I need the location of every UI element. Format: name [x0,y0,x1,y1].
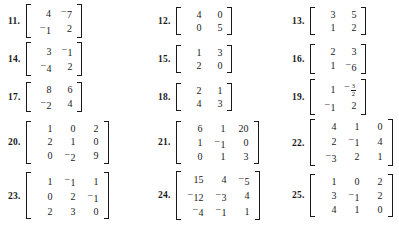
matrix-body: 3512 [317,8,359,34]
matrix-entry: 1 [79,173,102,189]
matrix-entry-value: 1 [197,137,202,148]
matrix-entry: 2 [54,59,75,75]
exercise-item: 12.4005 [148,7,290,35]
exercise-item: 18.2143 [148,83,290,111]
matrix-entry: −4 [183,203,207,219]
exercise-row: 17.86−2418.214319.1−32−12 [0,78,399,116]
matrix-entry: −1 [54,43,75,59]
matrix-entry: 1 [183,46,204,59]
exercise-item: 11.4−7−12 [0,4,148,38]
matrix-entry: −1 [33,21,54,37]
matrix-row: 1−10 [183,135,252,151]
matrix: 4−7−12 [26,4,82,38]
matrix-entry-value: 1 [354,121,359,132]
matrix: 3512 [310,7,366,35]
matrix-entry: 1 [317,21,338,34]
matrix-row: 21 [183,84,225,97]
matrix-row: 230 [33,205,102,218]
matrix-row: 4−7 [33,5,75,21]
matrix-entry-value: 0 [354,176,359,187]
matrix-entry: −3 [207,188,230,204]
exercise-item: 19.1−32−12 [290,79,399,114]
matrix-entry: −2 [56,148,79,164]
matrix-entry-value: 6 [351,61,356,72]
matrix-entry-value: 3 [351,46,356,57]
matrix-row: 0−29 [33,148,102,164]
matrix-row: 86 [33,83,75,96]
matrix-entry-value: 0 [217,9,222,20]
matrix-row: 410 [317,203,386,216]
matrix-entry: −4 [33,59,54,75]
matrix: 4102−14−321 [310,119,393,166]
matrix-entry: 2 [54,21,75,37]
matrix-entry: 3 [204,46,225,59]
matrix-entry-value: 4 [67,98,72,109]
matrix-entry-value: 3 [46,46,51,57]
matrix-entry-value: 0 [93,206,98,217]
matrix-entry-value: 2 [67,61,72,72]
exercise-number: 23. [8,191,20,201]
matrix-entry-value: 4 [377,136,382,147]
matrix-row: 3−12 [317,188,386,204]
matrix-row: −42 [33,59,75,75]
matrix-entry-value: 4 [46,8,51,19]
matrix-entry-value: 3 [217,98,222,109]
exercise-item: 14.3−1−42 [0,42,148,76]
matrix-row: 6120 [183,122,252,135]
matrix-entry: 0 [229,135,252,151]
matrix-entry: 0 [183,21,204,34]
exercise-number: 18. [158,92,170,102]
matrix-row: −12 [33,21,75,37]
exercise-item: 15.1320 [148,45,290,73]
matrix-entry: −6 [338,58,359,74]
matrix-row: −12 [317,98,359,114]
matrix-entry: 2 [363,188,386,204]
matrix-entry-value: 2 [67,23,72,34]
matrix-body: 1−32−12 [317,80,359,113]
matrix-row: 12 [317,21,359,34]
matrix-row: 1−11 [33,173,102,189]
matrix-entry: 5 [204,21,225,34]
matrix-row: 2−14 [317,133,386,149]
matrix-entry: 4 [230,188,253,204]
matrix-entry: 1 [206,150,229,163]
matrix-body: 1320 [183,46,225,72]
matrix-row: 23 [317,45,359,58]
exercise-item: 25.1023−12410 [290,174,399,218]
matrix-row: −12−34 [183,188,253,204]
matrix-entry-value: 5 [217,22,222,33]
matrix-entry-value: 2 [377,176,382,187]
matrix-entry-value: 2 [330,46,335,57]
matrix-entry: 15 [183,172,207,188]
matrix: 1022100−29 [26,121,109,165]
matrix-entry: 3 [56,205,79,218]
matrix-entry: 0 [183,150,206,163]
matrix-row: 3−1 [33,43,75,59]
matrix-entry-value: 0 [196,22,201,33]
matrix-entry: 6 [54,83,75,96]
matrix-row: 102 [33,122,102,135]
matrix-row: 410 [317,120,386,133]
matrix-entry-value: 2 [70,191,75,202]
matrix-row: 40 [183,8,225,21]
matrix-entry-value: 0 [47,150,52,161]
matrix-row: 13 [183,46,225,59]
matrix-entry-value: 0 [377,204,382,215]
matrix-entry: −1 [340,188,363,204]
matrix-entry-value: 2 [93,123,98,134]
matrix-entry: −7 [54,5,75,21]
matrix-row: 20 [183,59,225,72]
matrix-entry-value: 1 [220,123,225,134]
matrix-body: 1−1102−1230 [33,173,102,218]
matrix-entry: 1 [183,135,206,151]
matrix-entry-value: 6 [67,84,72,95]
matrix-entry: 3 [317,8,338,21]
matrix-entry-value: 3 [331,153,336,164]
matrix-entry: 4 [317,203,340,216]
minus-sign-icon: − [344,81,350,92]
matrix-entry-value: 0 [47,191,52,202]
matrix-entry-value: 1 [47,123,52,134]
matrix-entry: 0 [33,189,56,205]
matrix-entry-value: 1 [330,84,335,95]
matrix-row: 02−1 [33,189,102,205]
